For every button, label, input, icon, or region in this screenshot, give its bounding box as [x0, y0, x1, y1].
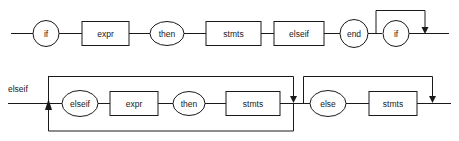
railroad-diagram-canvas: if expr then stmts: [0, 0, 459, 141]
node-top-stmts: stmts: [206, 22, 261, 46]
node-top-elseif: elseif: [274, 22, 324, 46]
node-bottom-stmts: stmts: [226, 92, 280, 116]
railroad-diagram: if expr then stmts: [0, 0, 459, 141]
node-top-end: end: [340, 20, 368, 48]
top-then-label: then: [159, 29, 176, 39]
node-top-expr: expr: [82, 22, 129, 46]
top-expr-label: expr: [97, 29, 114, 39]
bottom-then-label: then: [181, 99, 198, 109]
row-bottom: elseif elseif expr then: [8, 76, 451, 131]
node-top-then: then: [150, 22, 184, 46]
node-top-if: if: [33, 21, 59, 47]
top-stmts-label: stmts: [223, 29, 243, 39]
node-bottom-else: else: [310, 91, 346, 117]
arrow-down-icon: [429, 96, 436, 103]
top-if2-label: if: [394, 29, 399, 39]
node-bottom-stmts2: stmts: [369, 92, 417, 116]
bottom-elseif-label: elseif: [70, 99, 90, 109]
arrow-down-icon: [422, 27, 429, 34]
top-elseif-label: elseif: [289, 29, 309, 39]
node-top-if2: if: [383, 21, 409, 47]
top-end-label: end: [347, 29, 361, 39]
node-bottom-elseif: elseif: [62, 91, 98, 117]
node-bottom-expr: expr: [110, 92, 158, 116]
row-top: if expr then stmts: [11, 11, 449, 48]
node-bottom-then: then: [173, 92, 205, 116]
bottom-else-label: else: [320, 99, 336, 109]
bottom-stmts-label: stmts: [243, 99, 263, 109]
top-if-label: if: [44, 29, 49, 39]
bottom-stmts2-label: stmts: [383, 99, 403, 109]
row-bottom-entry-label: elseif: [8, 84, 28, 94]
arrow-down-icon: [290, 96, 297, 103]
arrow-up-icon: [45, 99, 52, 110]
bottom-expr-label: expr: [126, 99, 143, 109]
